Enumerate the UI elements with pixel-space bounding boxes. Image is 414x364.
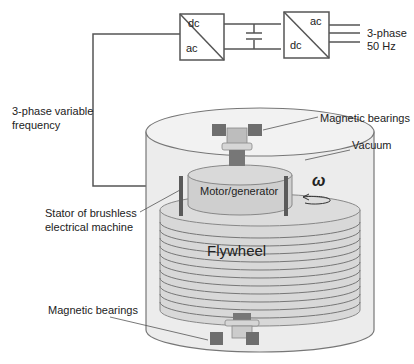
label-stator-line2: electrical machine xyxy=(45,220,133,234)
label-omega: ω xyxy=(312,174,325,188)
grid-output-line2: 50 Hz xyxy=(367,39,396,53)
label-flywheel: Flywheel xyxy=(207,244,266,258)
grid-output-line1: 3-phase xyxy=(367,26,407,40)
label-vacuum: Vacuum xyxy=(352,138,392,152)
stator-right xyxy=(284,176,288,216)
label-stator-line1: Stator of brushless xyxy=(45,206,137,220)
variable-freq-line1: 3-phase variable xyxy=(12,104,93,118)
stator-left xyxy=(179,176,183,216)
label-motor-generator: Motor/generator xyxy=(200,184,278,198)
label-magnetic-bearings-top: Magnetic bearings xyxy=(320,111,410,125)
converter-left-dc: dc xyxy=(188,16,200,30)
variable-freq-line2: frequency xyxy=(12,118,60,132)
converter-right-dc: dc xyxy=(290,38,302,52)
converter-right-ac: ac xyxy=(310,14,322,28)
converter-left-ac: ac xyxy=(186,41,198,55)
label-magnetic-bearings-bottom: Magnetic bearings xyxy=(48,303,138,317)
